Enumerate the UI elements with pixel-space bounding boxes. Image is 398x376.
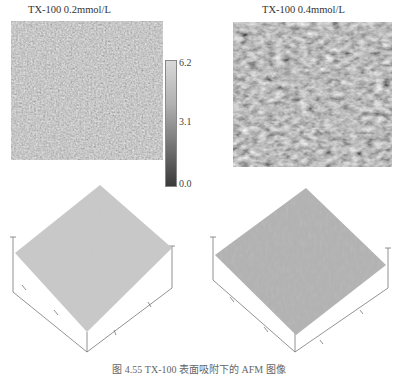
panel-title-right: TX-100 0.4mmol/L — [262, 4, 345, 15]
afm-image-right — [233, 22, 392, 167]
colorbar-tick-mid: 3.1 — [179, 116, 192, 127]
afm-image-left — [11, 21, 163, 160]
height-colorbar — [165, 60, 177, 187]
panel-title-left: TX-100 0.2mmol/L — [28, 4, 111, 15]
colorbar-tick-max: 6.2 — [179, 57, 192, 68]
afm-surface-3d-right — [200, 180, 398, 358]
figure-caption: 图 4.55 TX-100 表面吸附下的 AFM 图像 — [0, 361, 398, 376]
afm-surface-3d-left — [0, 180, 200, 358]
